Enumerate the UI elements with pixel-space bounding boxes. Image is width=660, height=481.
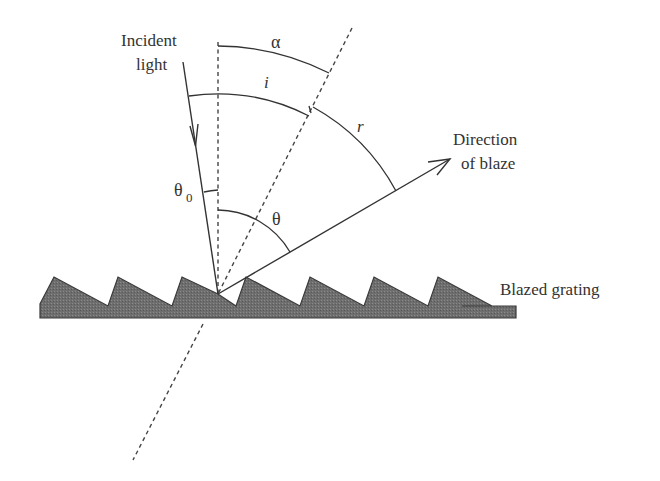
label-direction-of-blaze-1: Direction xyxy=(453,130,518,149)
facet-normal-line-below xyxy=(133,324,203,460)
label-direction-of-blaze-2: of blaze xyxy=(461,154,515,173)
facet-normal-line xyxy=(218,28,352,294)
label-i: i xyxy=(264,73,269,92)
arc-i xyxy=(189,94,309,116)
blaze-direction-ray xyxy=(218,159,450,294)
label-theta0-sub: 0 xyxy=(186,190,193,205)
arc-theta0 xyxy=(204,190,218,192)
incident-light-ray xyxy=(183,62,218,294)
label-theta0: θ xyxy=(174,180,183,200)
grating-body xyxy=(40,277,516,318)
label-r: r xyxy=(357,117,364,136)
arc-r xyxy=(313,107,396,191)
label-incident-light-2: light xyxy=(136,55,167,74)
blazed-grating xyxy=(40,277,516,318)
label-incident-light-1: Incident xyxy=(121,31,177,50)
label-alpha: α xyxy=(271,32,281,52)
label-theta: θ xyxy=(272,209,281,229)
label-blazed-grating: Blazed grating xyxy=(500,280,600,299)
blazed-grating-diagram: Incident light α i r θ 0 θ Direction of … xyxy=(0,0,660,481)
